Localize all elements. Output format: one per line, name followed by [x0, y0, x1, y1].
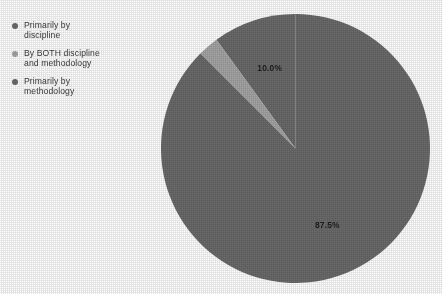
- legend-item-label: Primarily by methodology: [24, 76, 74, 97]
- legend-item-both-discipline-methodology: By BOTH discipline and methodology: [12, 48, 152, 69]
- legend-dot-icon: [12, 51, 18, 57]
- pie-svg: 10.0%87.5%: [161, 14, 430, 283]
- legend-item-primarily-methodology: Primarily by methodology: [12, 76, 152, 97]
- pie-slice-value-label: 10.0%: [257, 63, 282, 73]
- pie-slice-value-label: 87.5%: [315, 220, 340, 230]
- legend-item-label: By BOTH discipline and methodology: [24, 48, 100, 69]
- legend-item-primarily-discipline: Primarily by discipline: [12, 20, 152, 41]
- legend-dot-icon: [12, 79, 18, 85]
- pie-slices: [161, 14, 430, 283]
- legend-dot-icon: [12, 23, 18, 29]
- pie-chart-figure: Primarily by discipline By BOTH discipli…: [0, 0, 442, 294]
- legend-item-label: Primarily by discipline: [24, 20, 70, 41]
- pie-plot-area: 10.0%87.5%: [161, 14, 430, 283]
- chart-legend: Primarily by discipline By BOTH discipli…: [12, 20, 152, 103]
